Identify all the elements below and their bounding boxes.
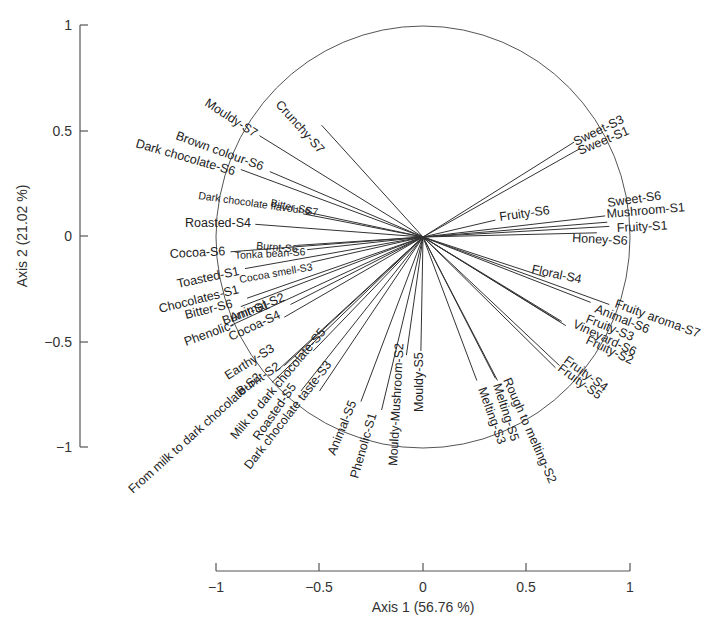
variable-labels: Crunchy-S7Mouldy-S7Brown colour-S6Dark c… bbox=[126, 96, 702, 496]
variable-label: Crunchy-S7 bbox=[273, 98, 328, 156]
variable-label: Cocoa-S6 bbox=[169, 244, 225, 261]
pca-correlation-circle-chart: 1 0.5 0 −0.5 −1 Axis 2 (21.02 %) −1 −0.5… bbox=[0, 0, 713, 628]
variable-vector bbox=[423, 237, 498, 381]
x-tick-label: 1 bbox=[626, 579, 634, 595]
variable-vector bbox=[423, 237, 560, 366]
variable-vector bbox=[423, 237, 545, 277]
variable-label: Tonka bean-S6 bbox=[234, 245, 305, 261]
variable-label: Floral-S4 bbox=[530, 262, 583, 286]
variable-vector bbox=[260, 136, 424, 237]
variable-vector bbox=[423, 237, 556, 368]
variable-label: Cocoa smell-S3 bbox=[238, 260, 313, 285]
x-tick-label: −1 bbox=[208, 579, 224, 595]
y-axis: 1 0.5 0 −0.5 −1 Axis 2 (21.02 %) bbox=[14, 17, 88, 455]
y-tick-label: 0 bbox=[64, 228, 72, 244]
variable-vector bbox=[421, 237, 423, 351]
x-tick-label: 0.5 bbox=[516, 579, 536, 595]
variable-label: Mouldy-Mushroom-S2 bbox=[386, 343, 406, 467]
y-tick-label: 0.5 bbox=[53, 123, 73, 139]
variable-label: Roasted-S4 bbox=[185, 216, 251, 230]
y-tick-label: −1 bbox=[56, 439, 72, 455]
variable-vector bbox=[313, 237, 423, 351]
variable-label: Fruity-S6 bbox=[498, 203, 550, 224]
x-tick-label: −0.5 bbox=[305, 579, 333, 595]
x-axis-title: Axis 1 (56.76 %) bbox=[372, 599, 475, 615]
variable-label: Phenolic-S1 bbox=[347, 411, 379, 480]
y-tick-label: −0.5 bbox=[44, 334, 72, 350]
variable-vector bbox=[423, 142, 574, 237]
variable-label: Fruity-S1 bbox=[616, 218, 667, 235]
x-tick-label: 0 bbox=[419, 579, 427, 595]
variable-vector bbox=[320, 237, 424, 391]
variable-label: Animal-S5 bbox=[325, 398, 360, 457]
variable-label: Mouldy-S5 bbox=[412, 352, 426, 412]
y-axis-title: Axis 2 (21.02 %) bbox=[14, 185, 30, 288]
x-axis: −1 −0.5 0 0.5 1 Axis 1 (56.76 %) bbox=[208, 563, 634, 615]
variable-vector bbox=[423, 237, 477, 381]
y-tick-label: 1 bbox=[64, 17, 72, 33]
